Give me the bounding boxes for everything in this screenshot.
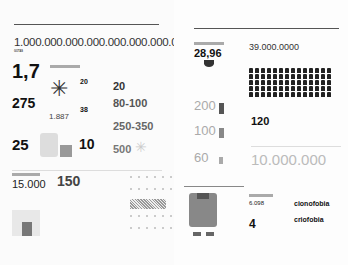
headline-label: GOTAS — [14, 50, 23, 53]
tag — [50, 65, 80, 68]
pattern-row — [130, 199, 166, 209]
stat-value: 4 — [249, 217, 256, 231]
word: criofobia — [294, 216, 324, 223]
stat-value: 150 — [57, 173, 80, 189]
stat-value: 28,96 — [194, 47, 222, 59]
stat-value: 200 — [194, 98, 216, 113]
drop-icon — [204, 60, 214, 67]
tower-icon — [219, 128, 224, 138]
stat-value: 80-100 — [113, 97, 147, 109]
divider — [14, 24, 159, 25]
snowflake-icon: ✳ — [135, 140, 147, 154]
cup-icon — [60, 145, 72, 157]
asterisk-icon: ✳ — [50, 78, 68, 100]
divider — [194, 28, 339, 29]
tower-icon — [219, 103, 224, 114]
stat-value: 20 — [113, 80, 125, 92]
stat-value: 100 — [194, 123, 216, 138]
tag — [12, 173, 40, 176]
tag — [249, 194, 273, 197]
stat-value: 1,7 — [12, 60, 40, 83]
stat-value: 6.098 — [249, 200, 264, 206]
stat-value: 1.887 — [49, 112, 69, 121]
robot-head — [197, 193, 209, 199]
robot-foot — [193, 232, 201, 236]
divider — [251, 146, 341, 147]
tower-icon — [219, 157, 223, 164]
stat-value: 250-350 — [113, 120, 153, 132]
divider — [12, 170, 162, 171]
right-page: 28,96 39.000.0000 200 100 60 120 10.000.… — [174, 0, 348, 265]
stat-value: 500 — [113, 143, 131, 155]
stat-value: 10 — [79, 136, 95, 152]
stat-value: 20 — [80, 78, 88, 85]
stat-value: 60 — [194, 150, 208, 165]
jar-icon — [40, 133, 58, 157]
stat-value: 39.000.0000 — [249, 42, 299, 52]
stat-value: 10.000.000 — [251, 151, 326, 168]
people-grid — [249, 68, 332, 97]
word: cionofobia — [294, 200, 329, 207]
stat-value: 38 — [80, 106, 88, 113]
divider — [184, 186, 244, 187]
stat-value: 275 — [12, 95, 35, 111]
left-page: 1.000.000.000.000.000.000.000.000 GOTAS … — [0, 0, 174, 265]
stat-value: 120 — [251, 115, 269, 127]
robot-foot — [206, 232, 214, 236]
building-shape — [22, 222, 32, 236]
headline-number: 1.000.000.000.000.000.000.000.000 — [14, 36, 190, 48]
stat-value: 25 — [12, 136, 29, 153]
stat-value: 15.000 — [12, 178, 46, 190]
tag — [194, 42, 224, 45]
